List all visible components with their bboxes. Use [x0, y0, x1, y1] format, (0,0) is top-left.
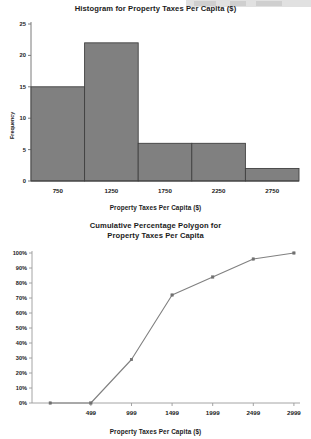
polygon-x-tick-label: 2499 [246, 409, 260, 416]
histogram-y-tick-label: 20 [20, 52, 26, 58]
polygon-data-point [211, 276, 213, 278]
polygon-plot-area: 0%10%20%30%40%50%60%70%80%90%100%4999991… [0, 241, 311, 428]
histogram-x-tick-label: 750 [53, 187, 64, 194]
polygon-x-axis-label: Property Taxes Per Capita ($) [0, 428, 311, 435]
histogram-plot-area: Frequency 05101520257501250175022502750 [0, 14, 311, 204]
polygon-svg: 0%10%20%30%40%50%60%70%80%90%100%4999991… [0, 241, 311, 428]
histogram-x-axis-label: Property Taxes Per Capita ($) [0, 204, 311, 211]
histogram-title: Histogram for Property Taxes Per Capita … [0, 4, 311, 14]
polygon-data-point [171, 294, 173, 296]
polygon-y-tick-label: 30% [16, 355, 27, 361]
polygon-x-tick-label: 499 [86, 409, 97, 416]
histogram-svg: 05101520257501250175022502750 [0, 14, 311, 204]
polygon-y-tick-label: 90% [16, 265, 27, 271]
polygon-data-point [90, 402, 92, 404]
polygon-y-tick-label: 70% [16, 295, 27, 301]
histogram-y-tick-label: 15 [20, 84, 27, 90]
polygon-y-tick-label: 10% [16, 385, 27, 391]
polygon-x-tick-label: 1499 [165, 409, 179, 416]
polygon-x-tick-label: 2999 [287, 409, 301, 416]
polygon-x-tick-label: 1999 [206, 409, 220, 416]
histogram-x-tick-label: 1250 [105, 187, 119, 194]
polygon-data-point [49, 402, 51, 404]
polygon-data-line [50, 253, 294, 403]
polygon-y-tick-label: 50% [16, 325, 27, 331]
histogram-y-tick-label: 5 [23, 147, 27, 153]
histogram-y-tick-label: 10 [20, 115, 26, 121]
polygon-y-tick-label: 20% [16, 370, 27, 376]
histogram-bar [192, 143, 246, 181]
polygon-y-tick-label: 60% [16, 310, 27, 316]
histogram-x-tick-label: 1750 [158, 187, 172, 194]
histogram-y-tick-label: 0 [23, 178, 26, 184]
polygon-y-tick-label: 0% [19, 400, 27, 406]
polygon-y-tick-label: 80% [16, 280, 27, 286]
histogram-bar [31, 87, 85, 181]
histogram-x-tick-label: 2250 [212, 187, 226, 194]
histogram-bar [138, 143, 192, 181]
polygon-y-tick-label: 100% [13, 250, 27, 256]
histogram-x-tick-label: 2750 [265, 187, 279, 194]
cumulative-polygon-chart: Cumulative Percentage Polygon for Proper… [0, 216, 311, 439]
polygon-title-line2: Property Taxes Per Capita [0, 231, 311, 241]
polygon-y-tick-label: 40% [16, 340, 27, 346]
histogram-bar [85, 43, 139, 181]
polygon-data-point [252, 258, 254, 260]
polygon-data-point [130, 358, 132, 360]
histogram-bar [245, 168, 299, 181]
polygon-title-line1: Cumulative Percentage Polygon for [0, 221, 311, 231]
histogram-y-tick-label: 25 [20, 21, 27, 27]
polygon-data-point [293, 252, 295, 254]
histogram-y-axis-label: Frequency [9, 112, 15, 139]
polygon-x-tick-label: 999 [126, 409, 137, 416]
histogram-chart: Histogram for Property Taxes Per Capita … [0, 4, 311, 216]
